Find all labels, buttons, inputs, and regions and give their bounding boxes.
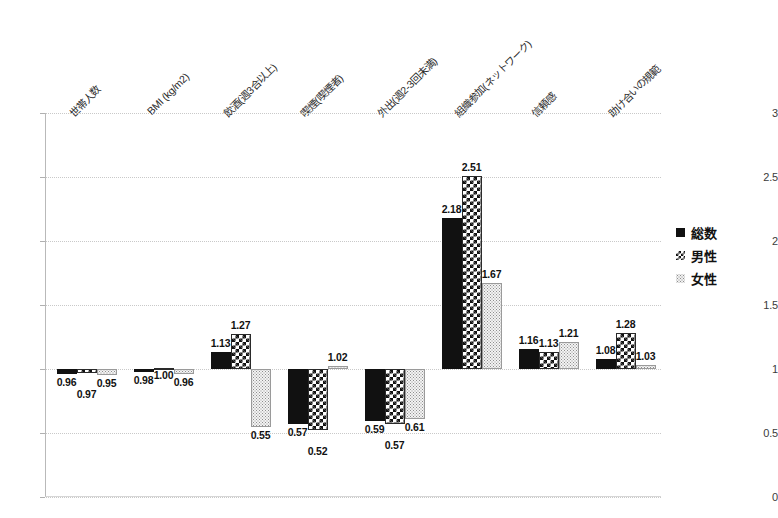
bar-fill-male — [539, 352, 559, 369]
bar-value-label: 1.28 — [606, 318, 646, 330]
y-tick-label: 2.5 — [744, 171, 778, 183]
bar-fill-male — [231, 334, 251, 369]
legend-item-female: 女性 — [676, 268, 717, 288]
bar-value-label: 1.21 — [549, 327, 589, 339]
bar-fill-female — [251, 369, 271, 427]
bar-value-label: 2.51 — [452, 161, 492, 173]
bar-fill-female — [174, 369, 194, 374]
bar-value-label: 0.57 — [375, 439, 415, 451]
bar-fill-female — [559, 342, 579, 369]
legend-swatch-male-icon — [676, 251, 685, 260]
bar-fill-male — [77, 369, 97, 373]
bar-total — [365, 369, 385, 421]
bar-total — [596, 359, 616, 369]
bar-group: 0.590.570.61 — [365, 113, 425, 497]
bar-group: 0.960.970.95 — [57, 113, 117, 497]
x-category-label: 組織参加(ネットワーク) — [450, 36, 534, 120]
bar-total — [57, 369, 77, 374]
bar-total — [519, 349, 539, 369]
bar-value-label: 1.03 — [626, 350, 666, 362]
bar-value-label: 0.59 — [355, 423, 395, 435]
bar-value-label: 1.67 — [472, 268, 512, 280]
bar-chart: 00.511.522.53 世帯人数BMI (kg/m2)飲酒(週3合以上)喫煙… — [0, 0, 778, 518]
bar-group: 1.161.131.21 — [519, 113, 579, 497]
bar-total — [288, 369, 308, 424]
bar-male — [231, 334, 251, 369]
legend-item-total: 総数 — [676, 222, 717, 242]
bar-fill-female — [97, 369, 117, 375]
legend-swatch-total-icon — [676, 228, 685, 237]
bar-value-label: 0.52 — [298, 445, 338, 457]
x-category-label: 助け合いの規範 — [604, 61, 663, 120]
bar-fill-female — [482, 283, 502, 369]
bar-total — [211, 352, 231, 369]
bar-group: 1.081.281.03 — [596, 113, 656, 497]
bar-value-label: 0.55 — [241, 429, 281, 441]
bar-group: 0.981.000.96 — [134, 113, 194, 497]
bar-fill-female — [328, 366, 348, 369]
bar-value-label: 1.02 — [318, 351, 358, 363]
legend-item-male: 男性 — [676, 245, 717, 265]
bar-fill-female — [636, 365, 656, 369]
bar-group: 2.182.511.67 — [442, 113, 502, 497]
legend: 総数 男性 女性 — [676, 222, 717, 291]
legend-label-female: 女性 — [691, 269, 717, 288]
y-tick-label: 0 — [744, 491, 778, 503]
bar-value-label: 1.27 — [221, 319, 261, 331]
x-category-label: 飲酒(週3合以上) — [219, 60, 279, 120]
bar-fill-female — [405, 369, 425, 419]
bar-value-label: 0.95 — [87, 377, 127, 389]
y-tick-mark — [40, 497, 45, 498]
bar-fill-male — [308, 369, 328, 430]
bar-female — [482, 283, 502, 369]
y-tick-label: 1.5 — [744, 299, 778, 311]
bar-value-label: 0.96 — [164, 376, 204, 388]
y-tick-label: 0.5 — [744, 427, 778, 439]
bar-fill-male — [385, 369, 405, 424]
bar-fill-total — [596, 359, 616, 369]
y-tick-label: 3 — [744, 107, 778, 119]
legend-label-male: 男性 — [691, 246, 717, 265]
bar-male — [539, 352, 559, 369]
bar-fill-total — [288, 369, 308, 424]
bar-male — [308, 369, 328, 430]
bar-fill-total — [442, 218, 462, 369]
bar-female — [174, 369, 194, 374]
x-category-label: 外出(週2-3回未満) — [373, 54, 439, 120]
bar-female — [97, 369, 117, 375]
bar-female — [559, 342, 579, 369]
bar-male — [77, 369, 97, 373]
bar-value-label: 0.97 — [67, 388, 107, 400]
bar-group: 1.131.270.55 — [211, 113, 271, 497]
bar-fill-total — [211, 352, 231, 369]
bar-female — [251, 369, 271, 427]
x-category-label: BMI (kg/m2) — [144, 70, 191, 117]
bar-female — [405, 369, 425, 419]
bar-value-label: 0.61 — [395, 421, 435, 433]
bar-group: 0.570.521.02 — [288, 113, 348, 497]
bar-fill-total — [365, 369, 385, 421]
bar-female — [636, 365, 656, 369]
bar-fill-total — [519, 349, 539, 369]
bar-female — [328, 366, 348, 369]
legend-swatch-female-icon — [676, 274, 685, 283]
gridline — [46, 497, 661, 498]
y-tick-label: 2 — [744, 235, 778, 247]
bar-total — [442, 218, 462, 369]
bar-male — [385, 369, 405, 424]
legend-label-total: 総数 — [691, 223, 717, 242]
bar-fill-total — [57, 369, 77, 374]
y-tick-label: 1 — [744, 363, 778, 375]
bar-value-label: 0.96 — [47, 376, 87, 388]
plot-area: 0.960.970.950.981.000.961.131.270.550.57… — [45, 113, 661, 497]
